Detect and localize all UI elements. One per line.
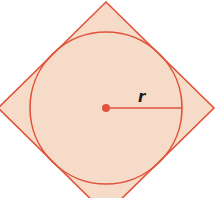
inscribed-circle-diagram: r xyxy=(0,0,223,198)
center-point xyxy=(102,104,110,112)
